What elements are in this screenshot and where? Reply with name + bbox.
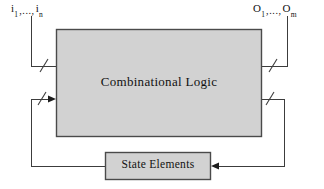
input-bus-dots: ,..., xyxy=(18,5,36,16)
input-bus-label: i1,...,in xyxy=(11,2,43,17)
output-bus-base: O xyxy=(253,2,261,14)
input-bus-wire xyxy=(31,16,56,72)
output-bus-base-last: O xyxy=(283,2,291,14)
sequential-logic-diagram: i1,...,in O1,...,Om Combinational Logic … xyxy=(0,0,324,189)
state-feedback-in-arrowhead-icon xyxy=(48,96,56,103)
output-bus-wire xyxy=(262,16,287,72)
input-bus-last-sub: n xyxy=(39,10,43,19)
state-elements-label: State Elements xyxy=(105,158,211,170)
output-bus-dots: ,..., xyxy=(265,5,283,16)
input-bus-line xyxy=(31,16,56,66)
output-bus-line xyxy=(262,16,287,66)
output-bus-last-sub: m xyxy=(291,10,297,19)
state-feedback-out-arrowhead-icon xyxy=(211,163,219,170)
combinational-logic-label: Combinational Logic xyxy=(56,74,262,90)
output-bus-label: O1,...,Om xyxy=(253,2,297,17)
